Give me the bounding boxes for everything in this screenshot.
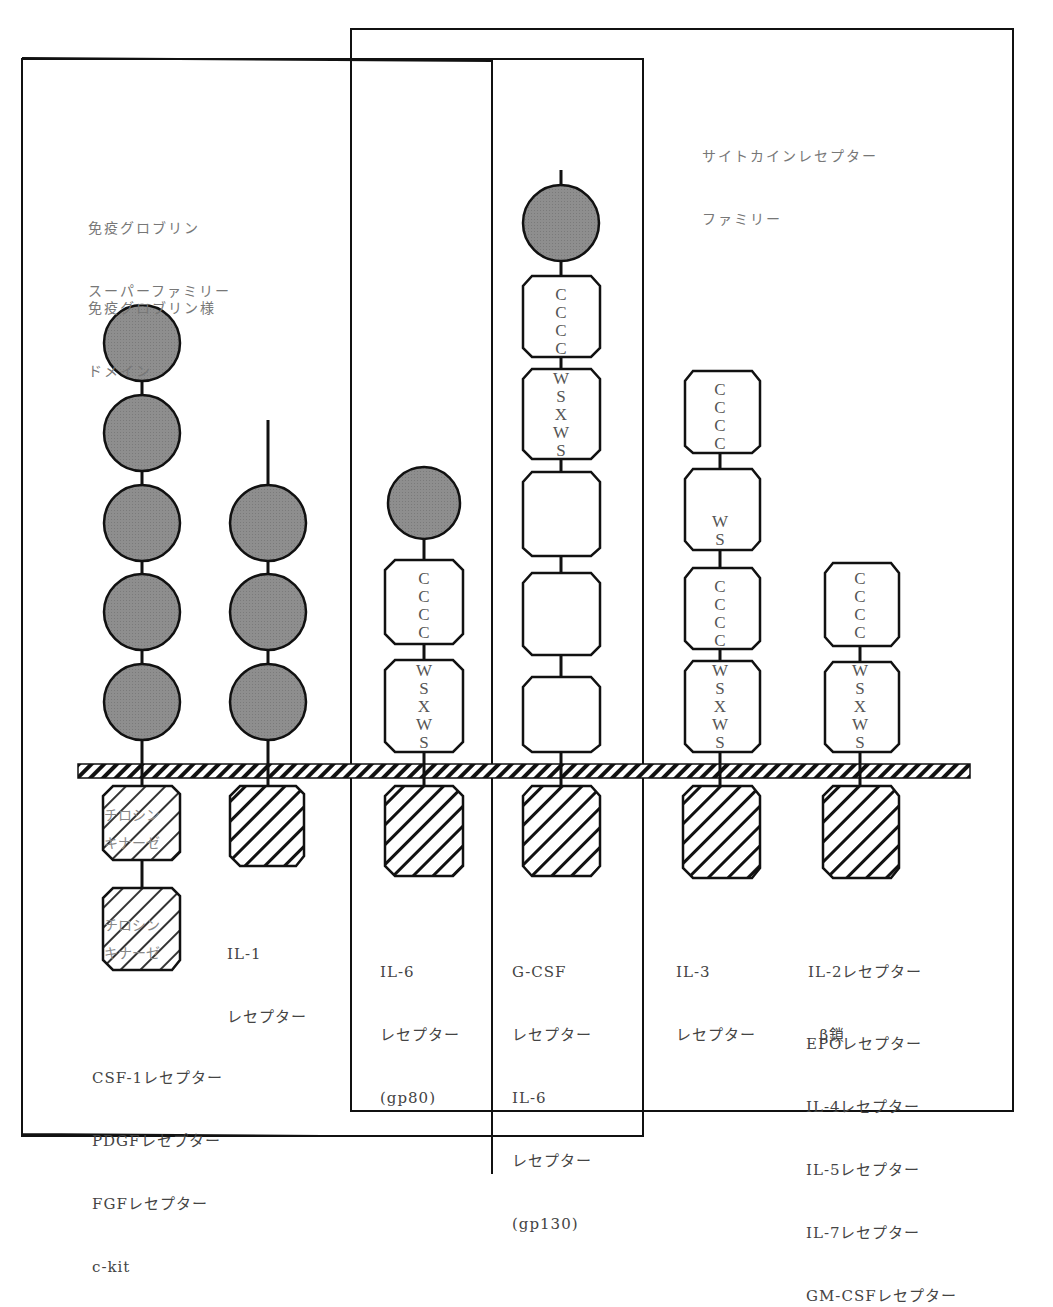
label-gcsf-receptor: G-CSF レセプター IL-6 レセプター (gp130): [512, 920, 592, 1256]
svg-text:C: C: [854, 569, 865, 588]
svg-text:C: C: [714, 595, 725, 614]
cytoplasmic-domain-il6: [385, 786, 463, 876]
svg-text:X: X: [714, 697, 726, 716]
svg-text:W: W: [852, 715, 869, 734]
svg-text:C: C: [854, 623, 865, 642]
svg-text:C: C: [714, 577, 725, 596]
svg-text:S: S: [556, 441, 565, 460]
svg-text:X: X: [555, 405, 567, 424]
svg-text:C: C: [714, 398, 725, 417]
svg-text:C: C: [418, 569, 429, 588]
receptor-il1: [230, 485, 306, 740]
svg-text:C: C: [714, 613, 725, 632]
svg-text:キナーゼ: キナーゼ: [104, 945, 160, 961]
label-il3-receptor: IL-3 レセプター: [676, 920, 756, 1067]
svg-text:S: S: [855, 733, 864, 752]
cytokine-family-title: サイトカインレセプター ファミリー: [702, 104, 878, 251]
svg-text:C: C: [555, 339, 566, 358]
svg-text:S: S: [855, 679, 864, 698]
svg-text:W: W: [416, 715, 433, 734]
cell-membrane: [78, 764, 970, 778]
svg-text:X: X: [418, 697, 430, 716]
svg-text:C: C: [714, 631, 725, 650]
cytoplasmic-domain-il1: [230, 786, 304, 866]
svg-text:チロシン: チロシン: [104, 807, 160, 823]
label-related-receptors: EPOレセプター IL-4レセプター IL-5レセプター IL-7レセプター G…: [806, 992, 957, 1307]
blank-domain-gcsf-2: [523, 573, 600, 655]
label-csf1-receptor: CSF-1レセプター PDGFレセプター FGFレセプター c-kit: [92, 1026, 223, 1299]
svg-text:W: W: [712, 661, 729, 680]
svg-text:W: W: [416, 661, 433, 680]
svg-text:C: C: [555, 321, 566, 340]
label-il1-receptor: IL-1 レセプター: [227, 902, 307, 1049]
svg-text:S: S: [556, 387, 565, 406]
ig-domain-gcsf: [523, 185, 599, 261]
svg-text:C: C: [714, 416, 725, 435]
svg-text:W: W: [553, 423, 570, 442]
svg-text:C: C: [714, 434, 725, 453]
svg-text:W: W: [712, 512, 729, 531]
label-il6-receptor: IL-6 レセプター (gp80): [380, 920, 460, 1130]
svg-text:C: C: [854, 587, 865, 606]
cytoplasmic-domain-il3: [683, 786, 760, 878]
svg-text:チロシン: チロシン: [104, 917, 160, 933]
ig-domain-legend: 免疫グロブリン様 ドメイン: [88, 256, 216, 403]
svg-text:W: W: [712, 715, 729, 734]
svg-text:C: C: [418, 587, 429, 606]
svg-text:S: S: [715, 530, 724, 549]
svg-text:C: C: [418, 623, 429, 642]
cytoplasmic-domain-gcsf: [523, 786, 600, 876]
svg-text:C: C: [555, 285, 566, 304]
svg-text:S: S: [715, 733, 724, 752]
ig-domain-il6: [388, 467, 460, 539]
svg-text:W: W: [852, 661, 869, 680]
svg-text:W: W: [553, 369, 570, 388]
svg-text:S: S: [715, 679, 724, 698]
svg-text:キナーゼ: キナーゼ: [104, 835, 160, 851]
svg-text:C: C: [714, 380, 725, 399]
blank-domain-gcsf-1: [523, 472, 600, 556]
svg-text:C: C: [854, 605, 865, 624]
blank-domain-gcsf-3: [523, 677, 600, 752]
svg-text:S: S: [419, 733, 428, 752]
cytoplasmic-domain-il2b: [823, 786, 899, 878]
svg-text:X: X: [854, 697, 866, 716]
svg-text:C: C: [555, 303, 566, 322]
svg-text:C: C: [418, 605, 429, 624]
svg-text:S: S: [419, 679, 428, 698]
